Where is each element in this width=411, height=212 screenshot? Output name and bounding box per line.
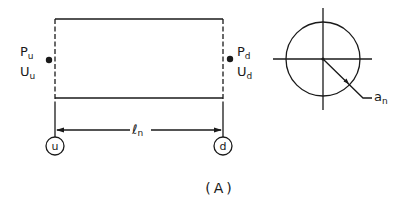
- downstream-point-marker: [227, 56, 233, 62]
- upstream-point-marker: [46, 57, 52, 63]
- radius-leader-line: [323, 59, 372, 98]
- cross-section-center-dot: [321, 57, 324, 60]
- dimension-arrowhead-right: [214, 128, 222, 133]
- downstream-velocity-label: Ud: [237, 64, 252, 81]
- upstream-node-label: u: [52, 140, 59, 153]
- figure-caption: (A): [205, 180, 235, 196]
- downstream-pressure-label: Pd: [237, 44, 251, 61]
- upstream-pressure-label: Pu: [20, 44, 34, 61]
- upstream-velocity-label: Uu: [20, 64, 35, 81]
- dimension-arrowhead-left: [56, 128, 64, 133]
- segment-length-label: ℓn: [131, 122, 143, 138]
- diagram-canvas: Pu Uu Pd Ud ℓn u d an (A): [0, 0, 411, 212]
- pipe-segment-figure: Pu Uu Pd Ud ℓn u d an (A): [0, 0, 411, 212]
- pipe-radius-label: an: [374, 89, 388, 106]
- downstream-node-label: d: [220, 140, 227, 153]
